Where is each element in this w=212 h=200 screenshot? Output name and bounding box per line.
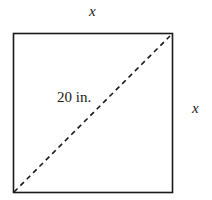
diagonal-dashed-line	[14, 36, 170, 192]
square-figure	[0, 0, 212, 200]
diagonal-length-label: 20 in.	[57, 89, 91, 106]
right-side-label: x	[192, 100, 199, 117]
top-side-label: x	[89, 3, 96, 20]
square-diagram: x x 20 in.	[0, 0, 212, 200]
